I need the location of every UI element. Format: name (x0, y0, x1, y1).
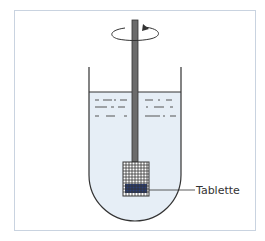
stirring-shaft (132, 20, 138, 162)
dissolution-apparatus-diagram (0, 0, 265, 241)
basket-mesh (123, 162, 149, 196)
tablet-label: Tablette (196, 184, 240, 197)
